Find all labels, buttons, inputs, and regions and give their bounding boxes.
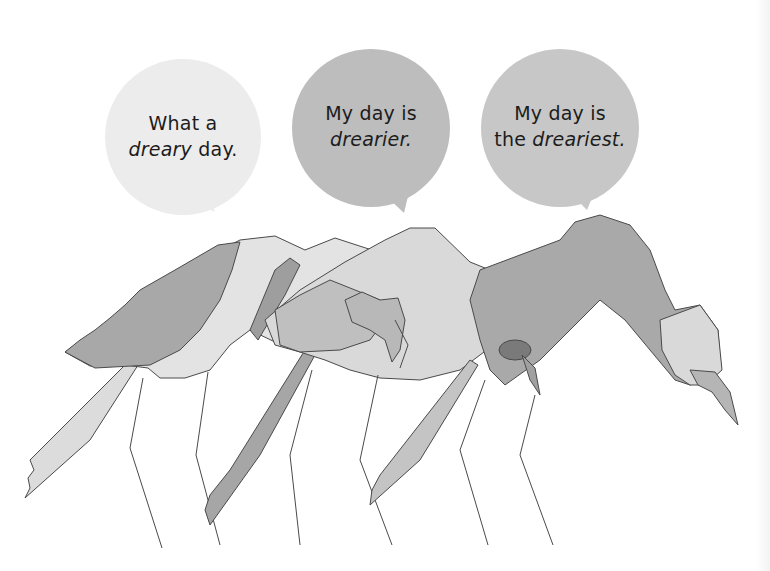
emphasis-word: dreary (129, 138, 192, 160)
page-edge-shading (756, 0, 770, 571)
flamingo-illustration (0, 0, 770, 571)
bubble-2-line-1: My day is (301, 100, 441, 126)
bubble-2-line-2: drearier. (301, 126, 441, 152)
bubble-1-line-2: dreary day. (113, 136, 253, 162)
speech-bubble-2-text: My day is drearier. (301, 100, 441, 152)
illustration-scene: What a dreary day. My day is drearier. M… (0, 0, 770, 571)
speech-bubble-3-text: My day is the dreariest. (485, 100, 635, 152)
emphasis-word: drearier. (330, 128, 412, 150)
bubble-3-line-1: My day is (485, 100, 635, 126)
emphasis-word: dreariest. (532, 128, 625, 150)
bubble-1-line-1: What a (113, 110, 253, 136)
speech-bubble-1-text: What a dreary day. (113, 110, 253, 162)
bubble-3-line-2: the dreariest. (485, 126, 635, 152)
